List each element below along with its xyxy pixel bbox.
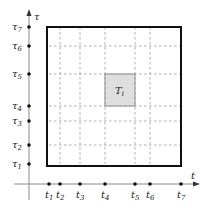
x-tick-dot <box>58 182 62 186</box>
x-tick-label: t4 <box>101 189 110 202</box>
y-axis-label: τ <box>34 11 40 22</box>
y-tick-label: τ3 <box>12 115 23 128</box>
y-axis-ticks: τ1τ2τ3τ4τ5τ6τ7 <box>12 21 31 171</box>
x-tick-label: t5 <box>131 189 140 202</box>
y-tick-dot <box>27 72 31 76</box>
x-axis-label: t <box>191 170 196 181</box>
x-tick-dot <box>103 182 107 186</box>
x-tick-label: t1 <box>45 189 54 202</box>
x-tick-dot <box>78 182 82 186</box>
y-tick-label: τ1 <box>12 158 22 171</box>
y-tick-dot <box>27 44 31 48</box>
x-tick-label: t3 <box>76 189 85 202</box>
time-grid-diagram: Ti t1t2t3t4t5t6t7 τ1τ2τ3τ4τ5τ6τ7 t τ <box>0 0 208 210</box>
x-tick-label: t2 <box>56 189 65 202</box>
y-tick-dot <box>27 143 31 147</box>
x-tick-label: t7 <box>177 189 186 202</box>
x-axis-arrow-icon <box>193 182 200 187</box>
y-tick-label: τ2 <box>12 139 23 152</box>
x-tick-dot <box>133 182 137 186</box>
x-tick-dot <box>148 182 152 186</box>
y-tick-dot <box>27 119 31 123</box>
y-axis-arrow-icon <box>27 9 32 16</box>
x-tick-label: t6 <box>146 189 155 202</box>
y-tick-dot <box>27 25 31 29</box>
y-tick-dot <box>27 162 31 166</box>
y-tick-label: τ7 <box>12 21 23 34</box>
x-axis-ticks: t1t2t3t4t5t6t7 <box>45 182 186 202</box>
x-tick-dot <box>47 182 51 186</box>
y-tick-label: τ6 <box>12 40 23 53</box>
x-tick-dot <box>179 182 183 186</box>
y-tick-label: τ4 <box>12 100 22 113</box>
y-tick-label: τ5 <box>12 68 23 81</box>
y-tick-dot <box>27 104 31 108</box>
